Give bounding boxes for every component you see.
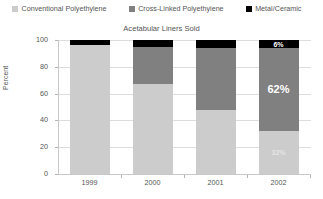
legend-item-metal-ceramic: Metal/Ceramic [246,5,302,12]
legend-swatch-metal-ceramic [246,6,252,12]
stacked-bar-2001 [196,40,236,174]
bar-segment [133,40,173,47]
x-axis-tick-mark [247,175,248,178]
stacked-bar-2000 [133,40,173,174]
stacked-bar-2002: 32%62%6% [259,40,299,174]
bar-segment [133,47,173,85]
legend-label-metal-ceramic: Metal/Ceramic [255,5,301,12]
x-axis-tick-mark [121,175,122,178]
y-axis-tick-label: 100 [0,36,48,43]
legend-label-cross-linked-polyethylene: Cross-Linked Polyethylene [138,5,224,12]
bar-segment: 62% [259,48,299,131]
x-axis-tick-label: 2001 [184,179,247,186]
bar-group [58,40,121,174]
bar-group: 32%62%6% [247,40,310,174]
bar-segment [70,45,110,174]
chart-container: Conventional Polyethylene Cross-Linked P… [0,0,323,199]
y-axis-tick-label: 20 [0,143,48,150]
bar-segment [133,84,173,174]
y-axis-tick-label: 80 [0,63,48,70]
x-axis-tick-label: 1999 [58,179,121,186]
bar-segment-value-label: 32% [271,149,285,156]
bar-segment [70,40,110,45]
x-axis-tick-mark [184,175,185,178]
x-axis-tick-label: 2002 [247,179,310,186]
y-axis-tick-label: 40 [0,116,48,123]
bars-layer: 32%62%6% [58,40,310,174]
stacked-bar-1999 [70,40,110,174]
legend-swatch-conventional-polyethylene [12,6,18,12]
bar-segment-value-label: 6% [273,41,283,48]
bar-segment [196,48,236,110]
bar-segment: 32% [259,131,299,174]
legend-item-cross-linked-polyethylene: Cross-Linked Polyethylene [129,5,224,12]
bar-group [121,40,184,174]
bar-segment-value-label: 62% [267,84,289,95]
y-axis-tick-label: 60 [0,90,48,97]
bar-segment [196,110,236,174]
x-axis-tick-mark [310,175,311,178]
legend-item-conventional-polyethylene: Conventional Polyethylene [12,5,107,12]
chart-legend: Conventional Polyethylene Cross-Linked P… [0,0,323,18]
bar-segment: 6% [259,40,299,48]
chart-title: Acetabular Liners Sold [0,24,323,33]
x-axis-tick-label: 2000 [121,179,184,186]
legend-label-conventional-polyethylene: Conventional Polyethylene [22,5,107,12]
y-axis-tick-label: 0 [0,170,48,177]
bar-segment [196,40,236,48]
bar-group [184,40,247,174]
legend-swatch-cross-linked-polyethylene [129,6,135,12]
